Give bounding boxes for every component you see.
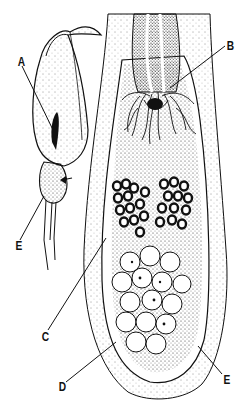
spadix-stalk: [132, 14, 180, 92]
label-B: B: [227, 40, 234, 52]
label-C: C: [42, 331, 49, 343]
peduncle: [44, 200, 56, 270]
label-E-right: E: [224, 374, 231, 386]
label-E-left: E: [16, 240, 23, 252]
spathe-blade: [33, 27, 101, 166]
botanical-diagram: [0, 0, 252, 408]
section-view: [84, 14, 227, 399]
leader-E-left: [20, 196, 44, 240]
label-A: A: [18, 56, 25, 68]
label-D: D: [59, 381, 66, 393]
